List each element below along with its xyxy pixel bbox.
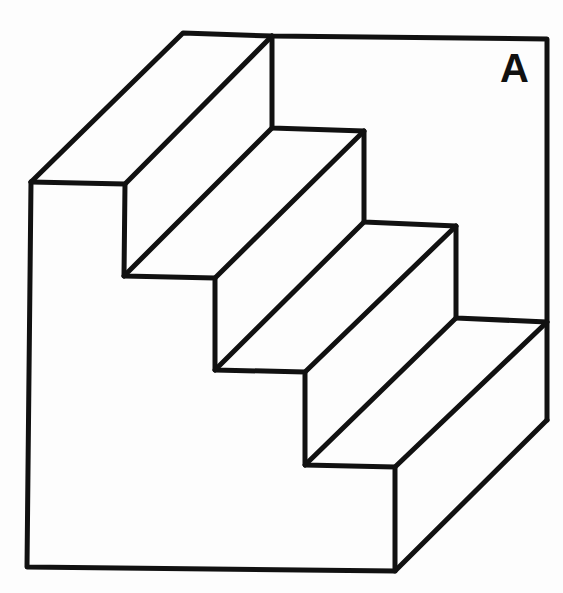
front-left-wall xyxy=(27,182,547,571)
tread-line-3 xyxy=(215,222,364,370)
tread-diagonals xyxy=(124,128,547,467)
tread-line-2 xyxy=(215,131,364,278)
back-top-edge xyxy=(31,33,547,420)
figure-label: A xyxy=(500,48,529,88)
tread-line-1 xyxy=(124,128,272,276)
staircase-diagram xyxy=(0,0,563,593)
front-step-profile xyxy=(124,184,395,571)
tread-line-5 xyxy=(305,318,456,465)
step-profile-front xyxy=(124,184,395,571)
tread-line-4 xyxy=(305,226,456,372)
